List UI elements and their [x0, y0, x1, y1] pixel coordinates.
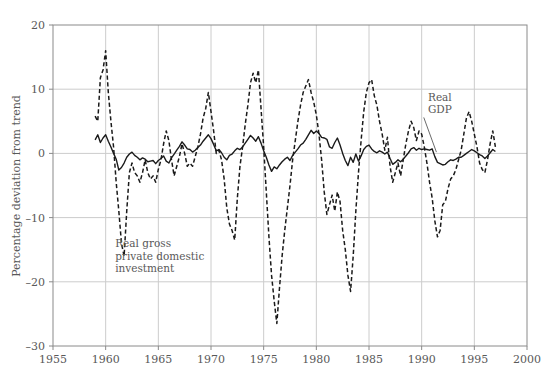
- x-tick-label: 1990: [408, 353, 436, 366]
- chart-background: [0, 0, 552, 386]
- x-tick-label: 1970: [197, 353, 225, 366]
- y-tick-label: –20: [26, 276, 46, 289]
- chart-figure: 1955196019651970197519801985199019952000…: [0, 0, 552, 386]
- real-gdp-label: RealGDP: [428, 91, 452, 116]
- x-tick-label: 1975: [250, 353, 278, 366]
- x-tick-label: 1980: [302, 353, 330, 366]
- y-tick-label: 0: [38, 147, 45, 160]
- x-tick-label: 1955: [39, 353, 67, 366]
- x-tick-label: 1965: [144, 353, 172, 366]
- x-tick-label: 1960: [92, 353, 120, 366]
- x-tick-label: 1995: [460, 353, 488, 366]
- x-tick-label: 2000: [513, 353, 541, 366]
- y-tick-label: –10: [26, 212, 46, 225]
- y-tick-label: 10: [31, 83, 45, 96]
- y-tick-label: –30: [26, 340, 46, 353]
- y-axis-title: Percentage deviation from trend: [10, 95, 23, 277]
- y-tick-label: 20: [31, 19, 45, 32]
- x-tick-label: 1985: [355, 353, 383, 366]
- business-cycle-deviation-chart: 1955196019651970197519801985199019952000…: [0, 0, 552, 386]
